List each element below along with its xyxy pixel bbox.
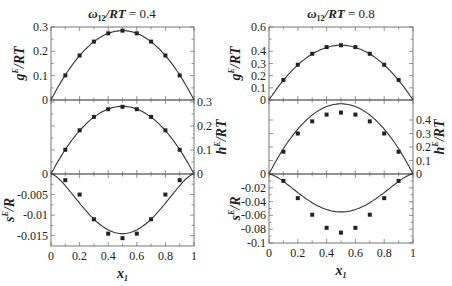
y-tick-label: 0.2 xyxy=(416,140,431,154)
y-tick-label: 0.3 xyxy=(416,127,431,141)
data-point xyxy=(63,73,67,77)
model-curve xyxy=(51,106,194,174)
data-point xyxy=(78,193,82,197)
y-tick-label: 0.1 xyxy=(416,154,431,168)
data-point xyxy=(353,226,357,230)
subplot-se-r: 0-0.02-0.04-0.06-0.08-0.1sE/R xyxy=(227,167,413,250)
data-point xyxy=(78,128,82,132)
data-point xyxy=(310,52,314,56)
y-tick-label: 0 xyxy=(260,167,266,181)
y-tick-label: 0.4 xyxy=(416,113,431,127)
y-tick-label: 0.6 xyxy=(251,20,266,34)
data-point xyxy=(149,217,153,221)
data-point xyxy=(397,78,401,82)
data-point xyxy=(178,178,182,182)
data-point xyxy=(397,179,401,183)
y-tick-label: 0.1 xyxy=(33,69,48,83)
chart-panel-right: ω12/RT = 0.800.10.20.30.40.6gE/RT00.10.2… xyxy=(227,6,447,280)
y-axis-label: sE/R xyxy=(227,196,243,221)
y-tick-label: 0.1 xyxy=(251,81,266,95)
data-point xyxy=(178,148,182,152)
x-tick-label: 0 xyxy=(266,246,272,260)
data-point xyxy=(382,196,386,200)
data-point xyxy=(397,150,401,154)
y-tick-label: -0.015 xyxy=(17,229,48,243)
plot-frame xyxy=(51,27,194,100)
subplot-ge-rt: 00.10.20.30.40.6gE/RT xyxy=(227,20,413,107)
y-tick-label: -0.06 xyxy=(241,208,266,222)
y-tick-label: -0.005 xyxy=(17,188,48,202)
data-point xyxy=(163,53,167,57)
data-point xyxy=(135,232,139,236)
data-point xyxy=(310,119,314,123)
data-point xyxy=(121,29,125,33)
model-curve xyxy=(269,45,413,100)
y-tick-label: 0.4 xyxy=(251,44,266,58)
data-point xyxy=(368,213,372,217)
y-tick-label: 0 xyxy=(197,167,203,181)
x-tick-label: 0.6 xyxy=(348,246,363,260)
data-point xyxy=(296,196,300,200)
model-curve xyxy=(51,174,194,234)
data-point xyxy=(63,148,67,152)
data-point xyxy=(163,193,167,197)
y-tick-label: 0.3 xyxy=(33,20,48,34)
data-point xyxy=(149,115,153,119)
data-point xyxy=(92,40,96,44)
y-tick-label: 0.2 xyxy=(33,44,48,58)
data-point xyxy=(178,73,182,77)
data-point xyxy=(106,31,110,35)
x-tick-label: 0.2 xyxy=(72,249,87,263)
x-tick-label: 0.4 xyxy=(319,246,334,260)
y-tick-label: -0.01 xyxy=(23,208,48,222)
data-point xyxy=(382,132,386,136)
model-curve xyxy=(51,31,194,100)
data-point xyxy=(353,113,357,117)
data-point xyxy=(149,40,153,44)
data-point xyxy=(382,63,386,67)
y-axis-label: sE/R xyxy=(1,198,17,223)
data-point xyxy=(135,107,139,111)
data-point xyxy=(368,119,372,123)
y-tick-label: 0.3 xyxy=(251,57,266,71)
y-tick-label: 0.2 xyxy=(251,69,266,83)
y-tick-label: 0 xyxy=(260,93,266,107)
y-tick-label: 0.2 xyxy=(197,119,212,133)
data-point xyxy=(106,232,110,236)
data-point xyxy=(281,150,285,154)
x-tick-label: 0.8 xyxy=(377,246,392,260)
y-tick-label: -0.1 xyxy=(247,236,266,250)
plot-frame xyxy=(269,27,413,100)
subplot-ge-rt: 00.10.20.3gE/RT xyxy=(11,20,194,107)
y-tick-label: 0.3 xyxy=(197,95,212,109)
chart-panel-left: ω12/RT = 0.400.10.20.3gE/RT00.10.20.3hE/… xyxy=(1,6,229,283)
x-tick-label: 0.2 xyxy=(290,246,305,260)
data-point xyxy=(92,217,96,221)
y-axis-label: hE/RT xyxy=(431,118,447,154)
y-tick-label: 0.1 xyxy=(197,143,212,157)
data-point xyxy=(106,107,110,111)
subplot-se-r: 0-0.005-0.01-0.015sE/R xyxy=(1,167,194,246)
data-point xyxy=(296,63,300,67)
y-tick-label: 0 xyxy=(416,167,422,181)
y-tick-label: -0.04 xyxy=(241,195,266,209)
y-axis-label: hE/RT xyxy=(213,118,229,154)
data-point xyxy=(281,179,285,183)
figure: ω12/RT = 0.400.10.20.3gE/RT00.10.20.3hE/… xyxy=(0,0,452,286)
y-tick-label: 0 xyxy=(42,167,48,181)
plot-frame xyxy=(51,174,194,246)
x-tick-label: 0.8 xyxy=(158,249,173,263)
x-axis-label: x1 xyxy=(116,266,128,283)
data-point xyxy=(121,105,125,109)
data-point xyxy=(78,53,82,57)
data-point xyxy=(121,236,125,240)
panel-title: ω12/RT = 0.8 xyxy=(307,6,375,23)
data-point xyxy=(368,52,372,56)
x-tick-label: 1 xyxy=(410,246,416,260)
data-point xyxy=(63,178,67,182)
data-point xyxy=(325,226,329,230)
subplot-he-rt: 00.10.20.3hE/RT xyxy=(51,95,229,181)
x-tick-label: 0.6 xyxy=(129,249,144,263)
data-point xyxy=(325,113,329,117)
x-tick-label: 1 xyxy=(191,249,197,263)
